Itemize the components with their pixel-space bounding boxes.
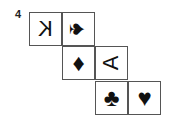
- cell-club: ♣: [95, 81, 128, 115]
- spade-icon: ♠: [67, 23, 91, 36]
- king-letter: K: [38, 16, 53, 42]
- club-icon: ♣: [104, 86, 120, 110]
- cell-heart: ♥: [128, 81, 161, 115]
- cell-ace: A: [95, 46, 128, 80]
- cell-spade: ♠: [62, 12, 95, 46]
- cell-diamond: ♦: [62, 46, 95, 80]
- ace-letter: A: [99, 56, 125, 71]
- diamond-icon: ♦: [72, 51, 84, 75]
- cell-king: K: [29, 12, 62, 46]
- heart-icon: ♥: [137, 86, 151, 110]
- problem-number: 4: [15, 8, 21, 20]
